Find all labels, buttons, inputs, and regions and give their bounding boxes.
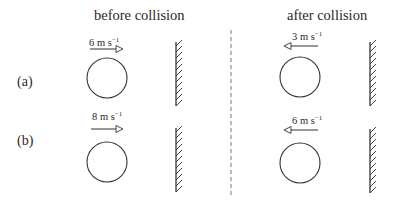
velocity-label: 8 m s−1	[92, 110, 123, 122]
ball-circle	[87, 142, 127, 182]
row-b-after: 6 m s−1	[280, 114, 376, 193]
wall-hatch-icon	[370, 40, 376, 106]
row-a-after: 3 m s−1	[280, 30, 376, 106]
row-a-before: 6 m s−1	[87, 36, 182, 106]
arrow-left-icon	[284, 127, 318, 134]
wall-hatch-icon	[176, 40, 182, 106]
velocity-label: 6 m s−1	[89, 36, 120, 48]
wall-hatch-icon	[370, 127, 376, 193]
column-title-before: before collision	[94, 7, 185, 23]
column-title-after: after collision	[287, 7, 368, 23]
row-b-before: 8 m s−1	[87, 110, 182, 192]
ball-circle	[280, 143, 320, 183]
arrow-right-icon	[91, 126, 123, 133]
row-label-a: (a)	[17, 74, 33, 90]
wall-hatch-icon	[176, 126, 182, 192]
collision-diagram: before collision after collision (a) (b)…	[0, 0, 400, 206]
row-label-b: (b)	[17, 133, 34, 149]
velocity-label: 3 m s−1	[292, 30, 323, 42]
velocity-label: 6 m s−1	[292, 114, 323, 126]
ball-circle	[280, 57, 320, 97]
ball-circle	[87, 58, 127, 98]
arrow-left-icon	[284, 43, 318, 50]
